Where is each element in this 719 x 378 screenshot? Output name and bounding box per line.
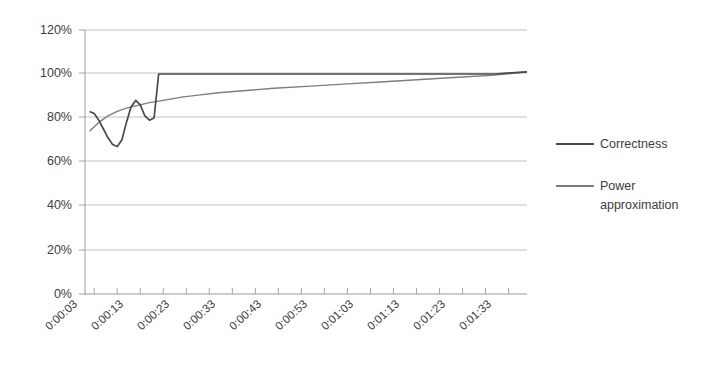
y-label-60: 60%	[47, 154, 72, 168]
y-label-120: 120%	[40, 23, 72, 37]
chart-container: 120% 100% 80% 60% 40% 20% 0% 0:00:03 0:0…	[0, 0, 719, 378]
y-label-100: 100%	[40, 66, 72, 80]
y-label-80: 80%	[47, 110, 72, 124]
y-label-20: 20%	[47, 243, 72, 257]
y-label-40: 40%	[47, 198, 72, 212]
legend-label-power-approximation-line2: approximation	[600, 198, 679, 212]
legend-label-power-approximation: Power	[600, 179, 635, 193]
legend-label-correctness: Correctness	[600, 137, 667, 151]
line-chart: 120% 100% 80% 60% 40% 20% 0% 0:00:03 0:0…	[0, 0, 719, 378]
